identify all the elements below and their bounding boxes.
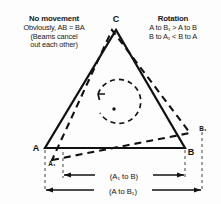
dimension-arrow-outer-right xyxy=(194,187,201,192)
vertex-label-a1: A₁ xyxy=(48,160,56,167)
dimension-arrow-inner-left xyxy=(64,172,71,177)
rotation-arrowhead-icon xyxy=(98,94,105,100)
rotation-arrow-icon xyxy=(98,79,141,123)
stationary-triangle xyxy=(45,30,185,148)
dimension-label-inner: (A₁ to B) xyxy=(110,172,139,181)
vertex-label-a: A xyxy=(33,143,40,153)
rotated-triangle xyxy=(52,30,190,160)
triangle-diagram-svg: (A₁ to B) (A to B₁) C A A₁ B B₁ xyxy=(0,0,221,204)
dimension-label-outer: (A to B₁) xyxy=(109,187,137,196)
diagram-canvas: No movement Obviously, AB = BA (Beams ca… xyxy=(0,0,221,204)
vertex-label-b: B xyxy=(188,147,195,157)
dimension-arrow-outer-left xyxy=(46,187,53,192)
vertex-label-b1: B₁ xyxy=(199,125,207,132)
dimension-arrow-inner-right xyxy=(177,172,184,177)
rotation-center-dot-icon xyxy=(112,107,115,110)
vertex-label-c: C xyxy=(113,14,120,24)
